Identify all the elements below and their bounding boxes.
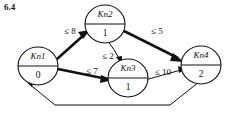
node-kn3-value: 1 <box>126 82 131 92</box>
node-kn2-name: Kn2 <box>96 9 113 19</box>
node-kn2-value: 1 <box>103 28 108 38</box>
edge-label-kn1-kn3: ≤ 7 <box>86 66 98 76</box>
node-kn1[interactable]: Kn1 0 <box>18 47 58 85</box>
node-kn3[interactable]: Kn3 1 <box>108 59 148 97</box>
graph-figure: 6.4 <box>0 0 225 113</box>
node-kn4-name: Kn4 <box>192 50 209 60</box>
node-kn2[interactable]: Kn2 1 <box>85 5 125 43</box>
node-kn4-value: 2 <box>199 69 204 79</box>
node-kn1-value: 0 <box>36 70 41 80</box>
node-kn3-name: Kn3 <box>119 63 136 73</box>
graph-canvas: ≤ 8 ≤ 5 ≤ 2 ≤ 7 ≤ 10 Kn1 0 Kn2 1 Kn3 1 <box>0 0 225 113</box>
node-kn1-name: Kn1 <box>29 51 45 61</box>
edge-label-kn3-kn4: ≤ 10 <box>155 67 172 77</box>
edge-label-kn2-kn4: ≤ 5 <box>151 26 163 36</box>
node-kn4[interactable]: Kn4 2 <box>181 46 221 84</box>
edge-label-kn1-kn2: ≤ 8 <box>64 26 76 36</box>
edge-label-kn2-kn3: ≤ 2 <box>102 51 114 61</box>
